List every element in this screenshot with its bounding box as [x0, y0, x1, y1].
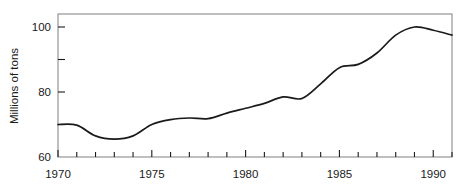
- x-axis-tick-labels: 19701975198019851990: [45, 168, 446, 180]
- x-axis-ticks: [58, 150, 452, 157]
- plot-border: [58, 14, 452, 157]
- plot-frame: [58, 14, 452, 157]
- y-tick-label: 60: [38, 151, 51, 163]
- data-series-line: [58, 27, 452, 139]
- x-tick-label: 1990: [420, 168, 446, 180]
- x-tick-label: 1975: [139, 168, 165, 180]
- y-tick-label: 100: [32, 21, 51, 33]
- x-tick-label: 1980: [233, 168, 259, 180]
- y-axis-tick-labels: 6080100: [32, 21, 51, 163]
- y-axis-ticks: [58, 27, 65, 125]
- x-tick-label: 1985: [327, 168, 353, 180]
- y-axis-title: Millions of tons: [8, 48, 20, 124]
- line-chart: 6080100 19701975198019851990 Millions of…: [0, 0, 474, 194]
- x-tick-label: 1970: [45, 168, 71, 180]
- chart-figure: 6080100 19701975198019851990 Millions of…: [0, 0, 474, 194]
- y-tick-label: 80: [38, 86, 51, 98]
